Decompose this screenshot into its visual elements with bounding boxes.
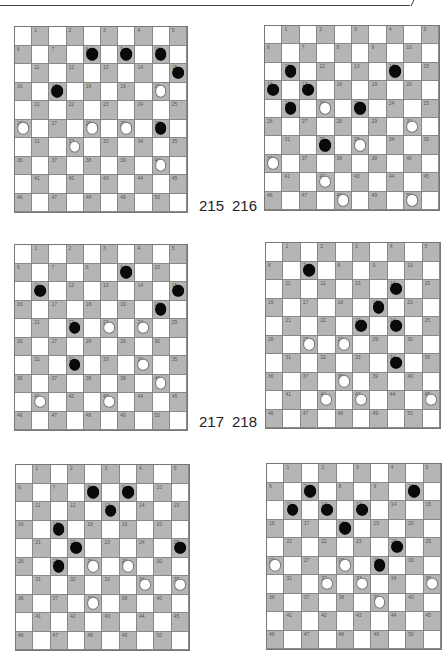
light-square [67, 46, 84, 65]
light-square [118, 64, 135, 83]
square-31: 31 [32, 138, 49, 157]
light-square [405, 354, 422, 373]
square-18: 18 [336, 299, 353, 318]
square-number: 40 [408, 595, 414, 600]
white-piece-icon [120, 122, 132, 135]
square-11: 11 [32, 64, 49, 83]
square-number: 18 [87, 522, 93, 527]
light-square [154, 613, 171, 632]
light-square [302, 464, 319, 483]
square-41: 41 [32, 175, 49, 194]
light-square [32, 157, 49, 176]
square-14: 14 [389, 501, 406, 520]
square-number: 3 [354, 27, 357, 32]
square-number: 15 [174, 503, 180, 508]
black-piece-icon [391, 540, 403, 553]
square-15: 15 [424, 501, 441, 520]
square-number: 4 [139, 466, 142, 471]
light-square [335, 26, 352, 44]
square-46: 46 [16, 632, 33, 651]
square-number: 13 [355, 281, 361, 286]
square-27: 27 [300, 118, 317, 136]
light-square [267, 612, 284, 631]
square-number: 4 [389, 27, 392, 32]
light-square [135, 338, 152, 357]
light-square [33, 558, 50, 577]
light-square [153, 319, 170, 338]
square-number: 42 [70, 614, 76, 619]
square-42: 42 [319, 612, 336, 631]
square-31: 31 [283, 354, 300, 373]
square-number: 47 [304, 632, 310, 637]
light-square [301, 354, 318, 373]
square-number: 41 [284, 174, 290, 179]
diagram-number: 217 [199, 413, 224, 430]
square-2: 2 [68, 465, 85, 484]
square-number: 7 [53, 485, 56, 490]
square-number: 37 [304, 595, 310, 600]
light-square [85, 539, 102, 558]
square-49: 49 [118, 412, 135, 431]
square-2: 2 [319, 464, 336, 483]
square-number: 26 [268, 337, 274, 342]
light-square [265, 100, 282, 118]
square-7: 7 [49, 264, 66, 283]
square-11: 11 [284, 501, 301, 520]
light-square [353, 299, 370, 318]
square-number: 2 [319, 27, 322, 32]
square-number: 1 [34, 28, 37, 33]
square-21: 21 [284, 538, 301, 557]
square-37: 37 [51, 595, 68, 614]
square-25: 25 [170, 101, 187, 120]
light-square [317, 118, 334, 136]
light-square [389, 557, 406, 576]
light-square [51, 502, 68, 521]
square-32: 32 [67, 138, 84, 157]
square-8: 8 [84, 264, 101, 283]
square-16: 16 [267, 520, 284, 539]
square-12: 12 [317, 63, 334, 81]
square-number: 24 [137, 102, 143, 107]
square-23: 23 [354, 538, 371, 557]
black-piece-icon [69, 321, 81, 334]
square-42: 42 [68, 613, 85, 632]
light-square [153, 175, 170, 194]
white-piece-icon [319, 176, 331, 189]
square-37: 37 [49, 157, 66, 176]
square-number: 37 [303, 374, 309, 379]
white-piece-icon [155, 85, 167, 98]
square-6: 6 [266, 262, 283, 281]
square-number: 46 [17, 413, 23, 418]
square-number: 13 [103, 65, 109, 70]
light-square [404, 100, 421, 118]
square-1: 1 [32, 245, 49, 264]
square-number: 33 [104, 577, 110, 582]
square-47: 47 [302, 631, 319, 650]
light-square [266, 243, 283, 262]
light-square [406, 501, 423, 520]
square-12: 12 [68, 502, 85, 521]
square-9: 9 [370, 262, 387, 281]
square-46: 46 [266, 410, 283, 429]
square-4: 4 [137, 465, 154, 484]
top-rule-curve [401, 0, 415, 6]
square-42: 42 [317, 173, 334, 191]
square-number: 3 [355, 244, 358, 249]
light-square [33, 632, 50, 651]
square-43: 43 [354, 612, 371, 631]
light-square [84, 356, 101, 375]
square-number: 44 [139, 614, 145, 619]
light-square [15, 245, 32, 264]
black-piece-icon [304, 485, 316, 498]
light-square [170, 338, 187, 357]
square-17: 17 [300, 81, 317, 99]
light-square [84, 393, 101, 412]
draughts-board-215: 1234567891011121314151617181920212223242… [14, 26, 188, 213]
light-square [336, 317, 353, 336]
square-46: 46 [15, 412, 32, 431]
light-square [406, 612, 423, 631]
black-piece-icon [390, 319, 402, 332]
square-number: 8 [338, 263, 341, 268]
square-46: 46 [267, 631, 284, 650]
light-square [265, 63, 282, 81]
